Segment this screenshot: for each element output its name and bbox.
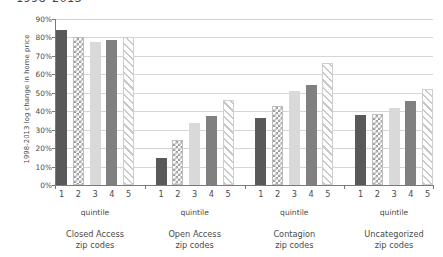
group-name-line1: Open Access [156,229,234,240]
quintile-tick-label: 5 [123,189,134,199]
bar[interactable] [389,108,400,185]
quintile-tick-label: 2 [172,189,183,199]
x-axis-group-tick [433,185,434,189]
quintile-tick-label: 1 [56,189,67,199]
quintile-tick-label: 5 [223,189,234,199]
quintile-tick-label: 2 [73,189,84,199]
group-name-line2: zip codes [255,240,333,251]
quintile-tick-label: 4 [206,189,217,199]
x-axis-group-tick [344,185,345,189]
x-axis-label: quintile [255,208,333,217]
group-name-line1: Closed Access [56,229,134,240]
x-axis-group-tick [145,185,146,189]
group-label-block: 12345quintileOpen Accesszip codes [156,189,234,250]
quintile-tick-label: 1 [255,189,266,199]
y-tick-label: 30% [36,125,52,134]
y-tick-label: 80% [36,33,52,42]
group-name-line2: zip codes [156,240,234,251]
y-tick-label: 40% [36,107,52,116]
quintile-tick-labels: 12345 [255,189,333,199]
quintile-tick-label: 2 [372,189,383,199]
quintile-tick-label: 4 [306,189,317,199]
group-label-block: 12345quintileContagionzip codes [255,189,333,250]
bar[interactable] [355,115,366,185]
quintile-tick-labels: 12345 [156,189,234,199]
bar-group: 12345quintileUncategorizedzip codes [355,19,433,185]
quintile-tick-label: 3 [90,189,101,199]
bar-group: 12345quintileOpen Accesszip codes [156,19,234,185]
quintile-tick-label: 3 [189,189,200,199]
bar[interactable] [255,118,266,185]
bar[interactable] [189,123,200,185]
bar[interactable] [289,91,300,185]
bar[interactable] [405,101,416,185]
quintile-tick-label: 2 [272,189,283,199]
quintile-tick-label: 1 [156,189,167,199]
bar-group: 12345quintileContagionzip codes [255,19,333,185]
group-name-line2: zip codes [56,240,134,251]
bars [255,19,333,185]
chart-title: 1998–2013 [16,0,82,5]
group-name-line1: Contagion [255,229,333,240]
bar[interactable] [272,106,283,185]
bar[interactable] [306,85,317,185]
x-axis-label: quintile [56,208,134,217]
quintile-tick-label: 5 [322,189,333,199]
y-axis-title: 1998-2013 log change in home price [23,14,31,184]
bars [56,19,134,185]
bar-group: 12345quintileClosed Accesszip codes [56,19,134,185]
quintile-tick-label: 4 [106,189,117,199]
quintile-tick-label: 5 [422,189,433,199]
group-name: Uncategorizedzip codes [355,229,433,250]
group-name-line2: zip codes [355,240,433,251]
plot-area: 90%80%70%60%50%40%30%20%10%0% 12345quint… [56,19,433,185]
quintile-tick-label: 3 [389,189,400,199]
bar[interactable] [206,116,217,185]
x-axis-label: quintile [156,208,234,217]
bar-chart-figure: 1998–2013 1998-2013 log change in home p… [0,0,443,257]
y-tick-label: 60% [36,70,52,79]
quintile-tick-label: 1 [355,189,366,199]
x-axis-group-tick [245,185,246,189]
group-name: Closed Accesszip codes [56,229,134,250]
y-tick-label: 70% [36,51,52,60]
quintile-tick-label: 3 [289,189,300,199]
bar[interactable] [73,37,84,185]
bar[interactable] [223,100,234,185]
y-tick-label: 0% [40,181,52,190]
bar[interactable] [372,114,383,185]
bar[interactable] [123,37,134,185]
bar[interactable] [56,30,67,185]
bar[interactable] [172,140,183,185]
bar[interactable] [90,42,101,185]
bar[interactable] [106,40,117,185]
group-name: Open Accesszip codes [156,229,234,250]
y-tick-label: 90% [36,15,52,24]
y-tick-label: 20% [36,144,52,153]
x-axis-label: quintile [355,208,433,217]
quintile-tick-labels: 12345 [56,189,134,199]
bar[interactable] [156,158,167,185]
quintile-tick-labels: 12345 [355,189,433,199]
bars [355,19,433,185]
group-name-line1: Uncategorized [355,229,433,240]
group-name: Contagionzip codes [255,229,333,250]
bar[interactable] [422,89,433,185]
quintile-tick-label: 4 [405,189,416,199]
y-tick-label: 10% [36,162,52,171]
group-label-block: 12345quintileUncategorizedzip codes [355,189,433,250]
bar[interactable] [322,63,333,185]
bars [156,19,234,185]
x-axis-group-tick [55,185,56,189]
group-label-block: 12345quintileClosed Accesszip codes [56,189,134,250]
y-tick-label: 50% [36,88,52,97]
